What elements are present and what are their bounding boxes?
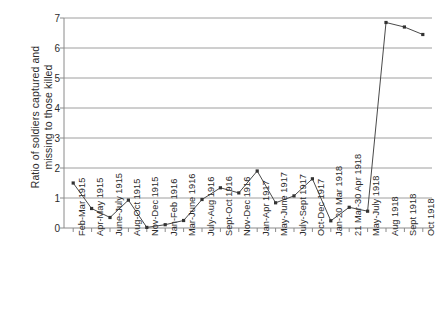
x-axis-tick-label: Jan-Apr 1917 <box>261 180 271 236</box>
x-axis-tick-label: July-Sept 1917 <box>298 174 308 236</box>
x-axis-tick-labels: Feb-Mar 1915Apr-May 1915June-July 1915Au… <box>0 0 448 325</box>
x-axis-tick-label: Aug-Oct 1915 <box>132 179 142 236</box>
x-axis-tick-label: Sept 1918 <box>408 194 418 236</box>
x-axis-tick-label: May-July 1918 <box>371 176 381 236</box>
x-axis-tick-label: July-Aug 1916 <box>206 177 216 236</box>
x-axis-tick-label: Oct 1918 <box>426 198 436 236</box>
x-axis-tick-label: Feb-Mar 1915 <box>77 178 87 236</box>
x-axis-tick-label: Apr-May 1915 <box>95 178 105 236</box>
x-axis-tick-label: Aug 1918 <box>390 196 400 236</box>
x-axis-tick-label: Sept-Oct 1916 <box>224 176 234 236</box>
x-axis-tick-label: June-July 1915 <box>114 173 124 236</box>
x-axis-tick-label: Mar-June 1916 <box>187 174 197 236</box>
x-axis-tick-label: Jan-20 Mar 1918 <box>334 166 344 236</box>
line-chart: Ratio of soldiers captured and missing t… <box>0 0 448 325</box>
x-axis-tick-label: 21 Mar-30 Apr 1918 <box>353 154 363 236</box>
x-axis-tick-label: Nov-Dec 1916 <box>242 177 252 236</box>
x-axis-tick-label: Jan-Feb 1916 <box>169 179 179 236</box>
x-axis-tick-label: Nov-Dec 1915 <box>150 177 160 236</box>
x-axis-tick-label: May-June 1917 <box>279 172 289 236</box>
x-axis-tick-label: Oct-Dec 1917 <box>316 179 326 236</box>
